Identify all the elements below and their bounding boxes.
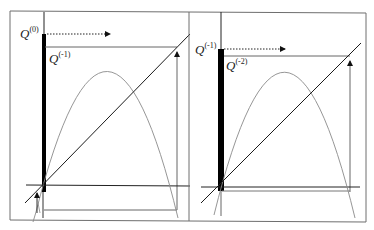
left-thick-bar (42, 34, 46, 192)
right-label-q-minus1: Q(-1) (195, 41, 217, 57)
left-parabola-curve (36, 71, 178, 218)
right-diagonal-line (201, 43, 361, 203)
right-parabola-curve (214, 72, 355, 218)
left-horizontal-axis (26, 185, 190, 186)
right-panel: Q(-1) Q(-2) (195, 12, 361, 218)
cobweb-diagram-figure: Q(0) Q(-1) Q(-1) Q(-2) (0, 0, 374, 230)
left-panel: Q(0) Q(-1) (20, 12, 190, 222)
left-label-q-minus1: Q(-1) (49, 50, 71, 66)
outer-frame (10, 11, 366, 222)
right-thick-bar (218, 49, 224, 191)
left-label-q0: Q(0) (20, 25, 39, 41)
right-label-q-minus2: Q(-2) (226, 57, 248, 73)
